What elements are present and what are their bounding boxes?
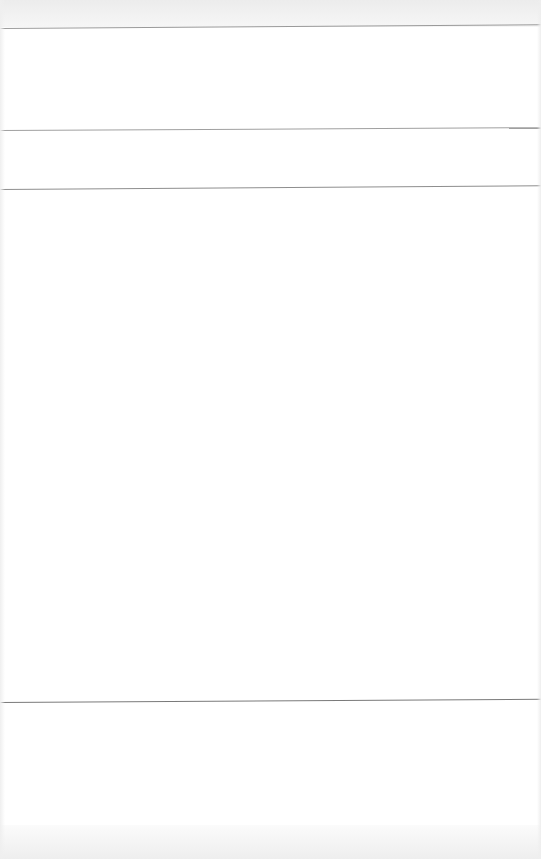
header-section [0,29,541,129]
subheader-section [0,131,541,188]
bottom-bar [0,825,541,859]
top-bar [0,0,541,27]
left-edge-shadow [0,0,5,859]
right-edge-shadow [537,0,541,859]
footer-section [0,703,541,825]
main-content-section [0,190,541,701]
